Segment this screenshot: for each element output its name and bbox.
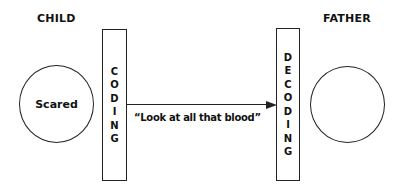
sender-label: CHILD (37, 12, 76, 25)
message-text: “Look at all that blood” (134, 112, 261, 123)
coding-box: CODING (102, 29, 127, 181)
vertical-letter: N (284, 132, 292, 146)
vertical-letter: G (110, 132, 118, 146)
vertical-letter: D (284, 51, 292, 65)
sender-state: Scared (35, 98, 78, 111)
vertical-letter: E (285, 64, 292, 78)
vertical-letter: O (110, 78, 119, 92)
vertical-letter: N (110, 119, 118, 133)
vertical-letter: D (284, 105, 292, 119)
receiver-circle (310, 66, 385, 143)
vertical-letter: O (284, 91, 293, 105)
decoding-box: DECODING (276, 28, 300, 181)
vertical-letter: C (111, 65, 118, 79)
vertical-letter: I (113, 105, 117, 119)
vertical-letter: I (286, 118, 290, 132)
message-arrow-line (126, 104, 267, 105)
sender-circle: Scared (19, 65, 94, 143)
coding-label: CODING (110, 65, 119, 146)
vertical-letter: G (284, 145, 292, 159)
vertical-letter: D (110, 92, 118, 106)
decoding-label: DECODING (284, 51, 293, 159)
receiver-label: FATHER (323, 12, 371, 25)
vertical-letter: C (284, 78, 291, 92)
